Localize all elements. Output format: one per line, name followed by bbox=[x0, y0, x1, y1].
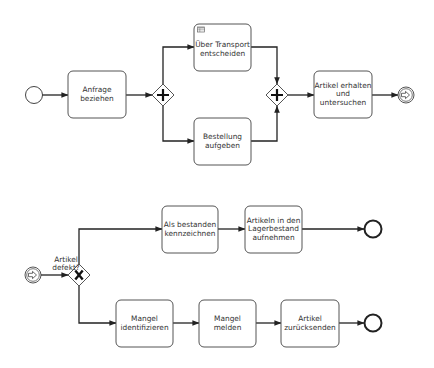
task-label: Mangelmelden bbox=[199, 300, 256, 347]
sequence-flow[interactable] bbox=[163, 106, 194, 141]
sequence-flow-no[interactable] bbox=[79, 229, 162, 264]
task-label: Über Transportentscheiden bbox=[194, 28, 251, 71]
task-label: Artikel erhaltenunduntersuchen bbox=[314, 71, 372, 118]
sequence-flow[interactable] bbox=[251, 47, 277, 84]
task-label: Artikelzurücksenden bbox=[281, 300, 339, 347]
parallel-gateway-split[interactable] bbox=[152, 84, 174, 106]
task-label: Artikeln in denLagerbestandaufnehmen bbox=[245, 206, 302, 253]
end-event-upper[interactable] bbox=[365, 221, 382, 238]
end-event-lower[interactable] bbox=[365, 315, 382, 332]
sequence-flow[interactable] bbox=[251, 106, 277, 141]
task-label: Bestellungaufgeben bbox=[194, 118, 251, 165]
message-end-event[interactable] bbox=[398, 87, 414, 103]
sequence-flow[interactable] bbox=[163, 47, 194, 84]
gateway-label: Artikeldefekt? bbox=[44, 256, 88, 273]
sequence-flow-yes[interactable] bbox=[79, 286, 116, 323]
task-label: Mangelidentifizieren bbox=[116, 300, 173, 347]
task-label: Anfragebeziehen bbox=[68, 71, 126, 118]
message-start-event[interactable] bbox=[25, 267, 41, 283]
task-label: Als bestandenkennzeichnen bbox=[162, 206, 218, 253]
start-event[interactable] bbox=[26, 87, 43, 104]
parallel-gateway-join[interactable] bbox=[266, 84, 288, 106]
